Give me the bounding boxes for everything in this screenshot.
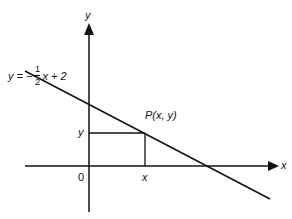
point-label: P(x, y) bbox=[145, 110, 177, 121]
x-axis-arrow-icon bbox=[268, 161, 279, 171]
y-tick-label: y bbox=[78, 127, 84, 138]
denominator: 2 bbox=[35, 77, 40, 87]
numerator: 1 bbox=[35, 64, 40, 74]
x-tick-label: x bbox=[142, 172, 148, 183]
equation-rhs: x + 2 bbox=[42, 70, 66, 82]
y-axis-label: y bbox=[85, 10, 91, 21]
origin-label: 0 bbox=[78, 172, 84, 183]
x-axis-label: x bbox=[281, 160, 287, 171]
line-equation: y = − 1 2 x + 2 bbox=[8, 64, 67, 87]
y-axis-arrow-icon bbox=[84, 23, 94, 35]
fraction-bar bbox=[34, 75, 40, 76]
equation-lhs: y = − bbox=[8, 70, 32, 82]
fraction: 1 2 bbox=[34, 64, 40, 87]
